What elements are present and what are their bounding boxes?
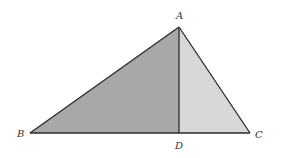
point-label-d: D [174,140,183,151]
vertex-label-c: C [255,129,263,140]
vertex-label-a: A [175,10,183,21]
triangle-diagram: A B C D [0,0,281,158]
vertex-label-b: B [16,128,24,139]
triangle-figure: A B C D [0,0,281,158]
